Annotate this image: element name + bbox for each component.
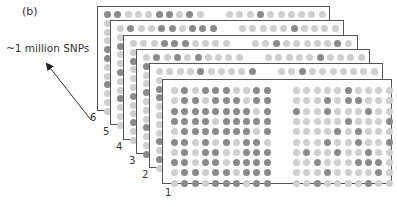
snp-dot-dark	[264, 87, 271, 94]
snp-dot-light	[262, 40, 269, 47]
snp-dot-light	[303, 159, 310, 166]
snp-dot-light	[365, 87, 372, 94]
card-number-3: 3	[129, 155, 135, 166]
snp-dot-light	[314, 87, 321, 94]
snp-dot-dark	[223, 128, 230, 135]
snp-dot-light	[253, 108, 260, 115]
snp-dot-dark	[324, 108, 331, 115]
snp-dot-dark	[233, 180, 240, 187]
snp-dot-light	[303, 97, 310, 104]
snp-dot-dark	[355, 139, 362, 146]
snp-dot-light	[164, 54, 171, 61]
snp-dot-light	[293, 149, 300, 156]
snp-dot-light	[171, 169, 178, 176]
snp-dot-light	[345, 180, 352, 187]
snp-dot-light	[192, 87, 199, 94]
snp-dot-light	[345, 159, 352, 166]
snp-dot-dark	[334, 149, 341, 156]
snp-dot-light	[247, 11, 254, 18]
snp-dot-light	[151, 40, 158, 47]
snp-dot-dark	[181, 118, 188, 125]
snp-dot-dark	[158, 25, 165, 32]
snp-dot-dark	[202, 139, 209, 146]
snp-dot-dark	[273, 40, 280, 47]
snp-dot-light	[334, 159, 341, 166]
snp-dot-light	[386, 149, 393, 156]
snp-dot-dark	[181, 128, 188, 135]
snp-dot-dark	[365, 180, 372, 187]
snp-dot-light	[171, 180, 178, 187]
snp-dot-dark	[355, 128, 362, 135]
snp-dot-dark	[202, 159, 209, 166]
snp-dot-dark	[212, 128, 219, 135]
snp-dot-light	[375, 87, 382, 94]
snp-dot-light	[360, 68, 367, 75]
snp-dot-dark	[243, 159, 250, 166]
snp-dot-light	[171, 97, 178, 104]
snp-dot-light	[212, 40, 219, 47]
snp-dot-dark	[156, 11, 163, 18]
snp-dot-light	[226, 11, 233, 18]
snp-dot-light	[386, 97, 393, 104]
snp-dot-dark	[355, 159, 362, 166]
snp-dot-dark	[223, 169, 230, 176]
snp-dot-light	[330, 68, 337, 75]
snp-dot-dark	[324, 169, 331, 176]
snp-dot-light	[125, 11, 132, 18]
snp-dot-light	[324, 180, 331, 187]
snp-dot-light	[293, 97, 300, 104]
snp-dot-light	[355, 149, 362, 156]
snp-dot-light	[319, 11, 326, 18]
snp-dot-dark	[334, 40, 341, 47]
snp-dot-dark	[314, 159, 321, 166]
snp-dot-light	[314, 169, 321, 176]
snp-dot-light	[233, 169, 240, 176]
snp-dot-dark	[181, 87, 188, 94]
snp-dot-light	[278, 68, 285, 75]
snp-dot-light	[386, 128, 393, 135]
snp-dot-dark	[166, 11, 173, 18]
snp-dot-dark	[174, 54, 181, 61]
snp-dot-dark	[202, 128, 209, 135]
snp-dot-light	[293, 169, 300, 176]
snp-dot-dark	[199, 25, 206, 32]
snp-dot-light	[298, 11, 305, 18]
snp-dot-dark	[171, 159, 178, 166]
snp-dot-dark	[243, 149, 250, 156]
snp-dot-dark	[264, 149, 271, 156]
snp-dot-dark	[233, 159, 240, 166]
snp-dot-dark	[299, 68, 306, 75]
snp-dot-dark	[192, 169, 199, 176]
snp-dot-light	[371, 68, 378, 75]
snp-dot-light	[314, 40, 321, 47]
snp-dot-dark	[253, 159, 260, 166]
snp-dot-dark	[264, 159, 271, 166]
snp-dot-dark	[386, 118, 393, 125]
snp-dot-light	[288, 68, 295, 75]
snp-dot-dark	[192, 180, 199, 187]
snp-dot-dark	[181, 149, 188, 156]
snp-dot-light	[345, 108, 352, 115]
snp-dot-light	[324, 118, 331, 125]
snp-dot-light	[270, 25, 277, 32]
snp-dot-light	[327, 54, 334, 61]
snp-dot-dark	[202, 118, 209, 125]
snp-dot-light	[365, 97, 372, 104]
snp-dot-light	[243, 180, 250, 187]
snp-dot-light	[355, 118, 362, 125]
snp-dot-dark	[181, 169, 188, 176]
snp-dot-light	[386, 159, 393, 166]
snp-dot-dark	[253, 118, 260, 125]
snp-dot-dark	[212, 87, 219, 94]
snp-dot-dark	[375, 159, 382, 166]
snp-dot-light	[345, 40, 352, 47]
snp-dot-light	[304, 40, 311, 47]
snp-dot-light	[355, 180, 362, 187]
snp-dot-dark	[212, 97, 219, 104]
snp-dot-light	[143, 54, 150, 61]
snp-dot-light	[223, 149, 230, 156]
snp-dot-light	[324, 128, 331, 135]
snp-dot-dark	[212, 159, 219, 166]
snp-dot-dark	[171, 118, 178, 125]
snp-dot-dark	[253, 87, 260, 94]
